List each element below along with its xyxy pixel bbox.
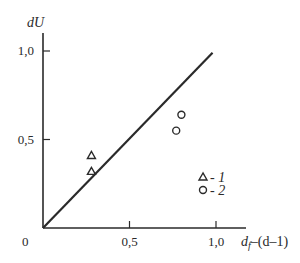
x-axis-title-rest: –(d–1)	[250, 234, 289, 250]
data-point-series-2	[173, 127, 180, 134]
y-axis-title: dU	[27, 15, 45, 30]
y-tick-label: 0,5	[18, 132, 34, 147]
y-tick-label: 1,0	[18, 43, 34, 58]
legend-circle-icon	[200, 187, 207, 194]
origin-label: 0	[22, 234, 29, 249]
x-tick-label: 1,0	[208, 234, 224, 249]
legend-triangle-icon	[199, 173, 207, 180]
data-point-series-1	[87, 151, 95, 158]
axes: 0,51,00,51,0	[18, 33, 246, 249]
x-axis-title: df–(d–1)	[241, 234, 288, 251]
legend: - 1- 2	[199, 170, 225, 198]
data-point-series-1	[87, 167, 95, 174]
data-point-series-2	[178, 111, 185, 118]
chart: 0,51,00,51,0 - 1- 2 dU 0 df–(d–1)	[0, 0, 300, 263]
legend-label: - 2	[210, 183, 225, 198]
data-points	[87, 111, 184, 174]
reference-line-y-equals-x	[43, 53, 213, 228]
x-tick-label: 0,5	[121, 234, 137, 249]
reference-line	[43, 53, 213, 228]
